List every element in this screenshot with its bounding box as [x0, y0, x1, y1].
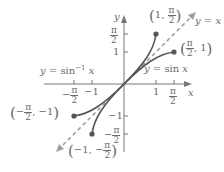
y-axis-label: y	[114, 12, 120, 22]
point-label-pi-over-2-1: (π2, 1)	[180, 39, 212, 58]
y-tick-pi-over-2: π2	[110, 26, 118, 45]
x-tick-1: 1	[153, 87, 159, 97]
point-sine-top	[171, 49, 176, 54]
x-tick-pi-over-2: π2	[169, 87, 177, 106]
arcsine-label: y = sin−1 x	[40, 63, 94, 76]
y-tick-neg-1: −1	[108, 111, 123, 121]
sine-label: y = sin x	[144, 64, 188, 74]
point-label-neg-pi-over-2-neg-1: (−π2, −1)	[10, 103, 59, 122]
x-tick-neg-1: −1	[84, 87, 99, 97]
identity-label: y = x	[195, 16, 221, 26]
point-arcsine-bottom	[89, 131, 94, 136]
point-sine-bottom	[71, 113, 76, 118]
inverse-sine-graph: y x π2 1 −1 −π2 −π2 −1 1 π2 y = sin−1 x …	[0, 0, 224, 172]
point-arcsine-top	[153, 31, 158, 36]
y-axis-arrow-icon	[121, 15, 127, 23]
x-tick-neg-pi-over-2: −π2	[62, 86, 78, 105]
point-label-1-pi-over-2: (1, π2)	[149, 6, 181, 25]
y-tick-1: 1	[113, 47, 119, 57]
point-label-neg-1-neg-pi-over-2: (−1, −π2)	[68, 141, 117, 160]
x-axis-label: x	[188, 88, 194, 98]
